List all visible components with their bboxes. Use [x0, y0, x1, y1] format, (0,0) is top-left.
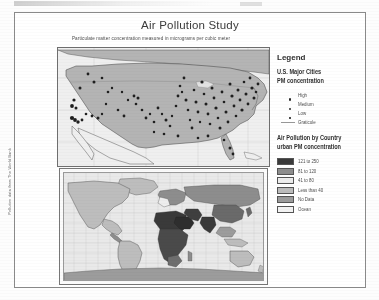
legend-item-graticule-label: Graticule	[298, 119, 316, 125]
legend-class-less-than-40-label: Less than 40	[298, 187, 323, 193]
legend-item-high[interactable]: High	[285, 91, 365, 100]
swatch-41-80	[277, 177, 294, 184]
swatch-121-250	[277, 158, 294, 165]
swatch-no-data	[277, 196, 294, 203]
swatch-ocean	[277, 206, 294, 213]
legend-class-121-250[interactable]: 121 to 250	[277, 157, 365, 167]
legend-heading: Legend	[277, 53, 365, 62]
graticule-line-icon	[281, 122, 295, 123]
page-subtitle: Particulate matter concentration measure…	[15, 35, 287, 41]
legend-class-less-than-40[interactable]: Less than 40	[277, 186, 365, 196]
legend-class-81-120[interactable]: 81 to 120	[277, 167, 365, 177]
us-map-graphic	[58, 48, 269, 166]
legend-item-high-label: High	[298, 92, 307, 98]
page-title: Air Pollution Study	[15, 19, 365, 31]
source-credit: Pollution data from The World Bank	[8, 148, 12, 215]
legend-points-title-line1: U.S. Major Cities	[277, 68, 365, 75]
legend-class-81-120-label: 81 to 120	[298, 168, 316, 174]
legend-class-41-80-label: 41 to 80	[298, 178, 314, 184]
map-poster: Air Pollution Study Particulate matter c…	[14, 12, 366, 288]
legend-item-medium[interactable]: Medium	[285, 100, 365, 109]
legend-class-ocean[interactable]: Ocean	[277, 205, 365, 215]
legend-class-no-data[interactable]: No Data	[277, 195, 365, 205]
world-map-graphic	[64, 173, 264, 281]
legend-item-low[interactable]: Low	[285, 109, 365, 118]
swatch-81-120	[277, 168, 294, 175]
legend-class-ocean-label: Ocean	[298, 206, 311, 212]
legend-class-41-80[interactable]: 41 to 80	[277, 176, 365, 186]
legend-item-low-label: Low	[298, 110, 306, 116]
world-choropleth-map[interactable]	[63, 172, 264, 281]
legend-class-no-data-label: No Data	[298, 197, 314, 203]
legend-choropleth-title-line1: Air Pollution by Country	[277, 134, 365, 141]
world-map-panel[interactable]	[59, 168, 268, 285]
legend-choropleth-title-line2: urban PM concentration	[277, 143, 365, 150]
small-dot-icon	[285, 105, 295, 123]
legend-class-121-250-label: 121 to 250	[298, 159, 319, 165]
swatch-less-than-40	[277, 187, 294, 194]
scan-artifact-top	[14, 1, 214, 6]
legend: Legend U.S. Major Cities PM concentratio…	[277, 53, 365, 214]
us-cities-map[interactable]	[57, 47, 270, 167]
scanned-page: Pollution data from The World Bank Air P…	[0, 0, 379, 300]
scan-artifact-top-right	[240, 2, 262, 6]
legend-item-medium-label: Medium	[298, 101, 314, 107]
legend-points-title-line2: PM concentration	[277, 77, 365, 84]
